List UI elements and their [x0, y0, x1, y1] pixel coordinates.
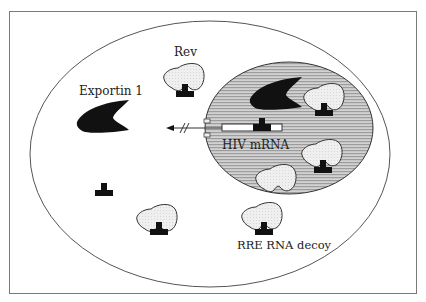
label-rev: Rev — [174, 45, 197, 59]
label-rre-decoy: RRE RNA decoy — [237, 238, 332, 252]
diagram-canvas: Rev Exportin 1 HIV mRNA RRE RNA decoy — [0, 0, 426, 302]
diagram-svg: Rev Exportin 1 HIV mRNA RRE RNA decoy — [0, 0, 426, 302]
label-hiv-mrna: HIV mRNA — [222, 138, 290, 152]
label-exportin: Exportin 1 — [79, 84, 143, 98]
